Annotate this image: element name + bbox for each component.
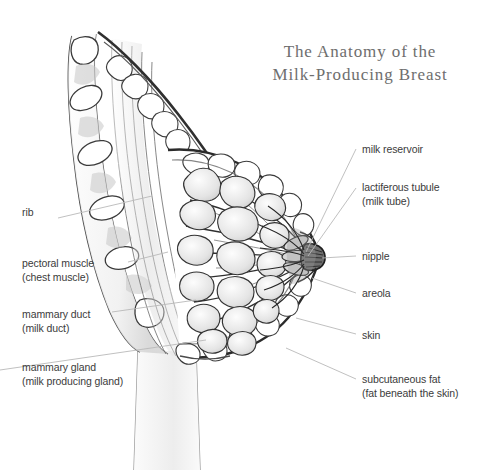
figure-title-line-2: Milk-Producing Breast [236, 63, 484, 86]
label-pectoral-muscle: pectoral muscle (chest muscle) [22, 256, 94, 284]
label-subcutaneous-fat-primary: subcutaneous fat [362, 373, 440, 385]
label-rib: rib [22, 205, 33, 219]
label-lactiferous-tubule: lactiferous tubule (milk tube) [362, 180, 440, 208]
label-areola: areola [362, 286, 391, 300]
label-rib-primary: rib [22, 206, 33, 218]
breast-group [168, 150, 325, 365]
label-lactiferous-tubule-secondary: (milk tube) [362, 194, 440, 208]
leader-skin [296, 318, 356, 334]
label-mammary-duct: mammary duct (milk duct) [22, 307, 90, 335]
figure-title-line-1: The Anatomy of the [236, 40, 484, 63]
label-skin-primary: skin [362, 329, 380, 341]
label-mammary-gland: mammary gland (milk producing gland) [22, 360, 123, 388]
label-milk-reservoir: milk reservoir [362, 142, 423, 156]
label-mammary-duct-primary: mammary duct [22, 308, 90, 320]
leader-nipple [322, 256, 356, 258]
label-milk-reservoir-primary: milk reservoir [362, 143, 423, 155]
label-subcutaneous-fat-secondary: (fat beneath the skin) [362, 386, 458, 400]
label-pectoral-muscle-secondary: (chest muscle) [22, 270, 94, 284]
label-mammary-duct-secondary: (milk duct) [22, 321, 90, 335]
figure-title: The Anatomy of the Milk-Producing Breast [236, 40, 484, 86]
leader-milk-reservoir [306, 149, 356, 252]
leader-areola [312, 278, 356, 293]
label-mammary-gland-primary: mammary gland [22, 361, 96, 373]
label-nipple-primary: nipple [362, 250, 389, 262]
label-subcutaneous-fat: subcutaneous fat (fat beneath the skin) [362, 372, 458, 400]
label-skin: skin [362, 328, 380, 342]
anatomy-diagram-page: The Anatomy of the Milk-Producing Breast… [0, 0, 488, 470]
label-nipple: nipple [362, 249, 389, 263]
torso-lower-fill [134, 350, 200, 470]
label-areola-primary: areola [362, 287, 391, 299]
label-lactiferous-tubule-primary: lactiferous tubule [362, 181, 440, 193]
label-pectoral-muscle-primary: pectoral muscle [22, 257, 94, 269]
label-mammary-gland-secondary: (milk producing gland) [22, 374, 123, 388]
leader-subcutaneous-fat [286, 348, 356, 379]
